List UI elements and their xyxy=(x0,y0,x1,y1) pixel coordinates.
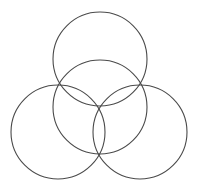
circles-diagram xyxy=(0,0,197,190)
